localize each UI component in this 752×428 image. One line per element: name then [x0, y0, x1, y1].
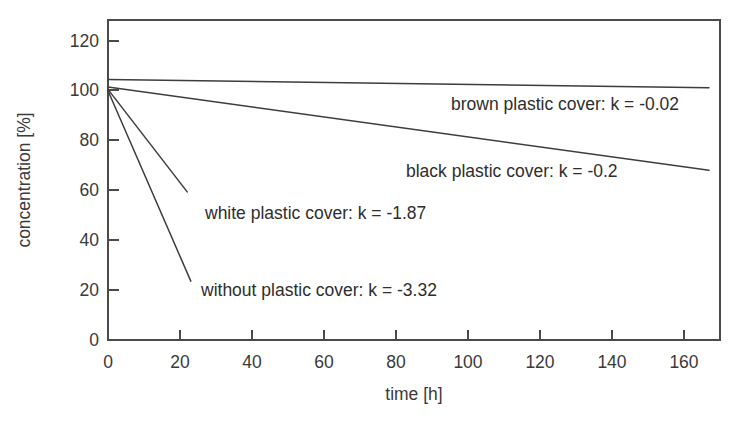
- x-axis-ticks: [180, 330, 684, 340]
- line-white-plastic-cover: [108, 89, 187, 191]
- x-tick-label-40: 40: [242, 352, 262, 372]
- x-tick-label-120: 120: [525, 352, 554, 372]
- x-tick-label-160: 160: [669, 352, 698, 372]
- y-tick-label-20: 20: [80, 280, 100, 300]
- concentration-decay-line-chart: 120 100 80 60 40 20 0 0 20 40 60 80 100: [0, 0, 752, 428]
- line-without-plastic-cover: [108, 91, 191, 281]
- y-tick-label-120: 120: [70, 31, 99, 51]
- y-tick-label-80: 80: [80, 130, 100, 150]
- x-tick-label-0: 0: [103, 352, 113, 372]
- x-tick-label-80: 80: [386, 352, 406, 372]
- x-axis-tick-labels: 0 20 40 60 80 100 120 140 160: [103, 352, 699, 372]
- x-tick-label-100: 100: [453, 352, 482, 372]
- series-label-brown-plastic-cover: brown plastic cover: k = -0.02: [451, 94, 679, 114]
- series-label-white-plastic-cover: white plastic cover: k = -1.87: [204, 203, 426, 223]
- x-tick-label-140: 140: [597, 352, 626, 372]
- y-axis-tick-labels: 120 100 80 60 40 20 0: [70, 31, 99, 350]
- x-tick-label-60: 60: [314, 352, 334, 372]
- x-tick-label-20: 20: [170, 352, 190, 372]
- series-label-black-plastic-cover: black plastic cover: k = -0.2: [406, 161, 618, 181]
- y-tick-label-0: 0: [89, 330, 99, 350]
- y-axis-ticks: [108, 41, 119, 290]
- chart-figure: 120 100 80 60 40 20 0 0 20 40 60 80 100: [0, 0, 752, 428]
- series-annotations: brown plastic cover: k = -0.02 black pla…: [200, 94, 679, 300]
- y-tick-label-40: 40: [80, 230, 100, 250]
- y-axis-title: concentration [%]: [14, 112, 34, 247]
- line-brown-plastic-cover: [108, 80, 709, 88]
- y-tick-label-100: 100: [70, 80, 99, 100]
- y-tick-label-60: 60: [80, 180, 100, 200]
- x-axis-title: time [h]: [385, 384, 442, 404]
- series-label-without-plastic-cover: without plastic cover: k = -3.32: [200, 280, 437, 300]
